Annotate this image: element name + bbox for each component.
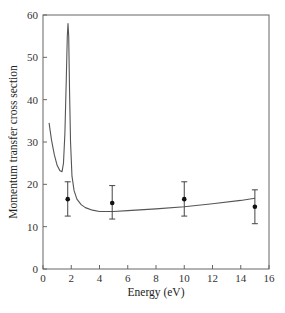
x-tick-label: 12 xyxy=(207,272,218,284)
marker-dot xyxy=(253,204,258,209)
plot-border xyxy=(43,15,269,269)
y-tick-label: 40 xyxy=(27,94,39,106)
x-tick-label: 14 xyxy=(235,272,247,284)
y-axis: 0102030405060 xyxy=(27,9,47,275)
y-tick-label: 0 xyxy=(33,263,39,275)
y-tick-label: 60 xyxy=(27,9,39,21)
x-tick-label: 10 xyxy=(179,272,191,284)
marker-dot xyxy=(65,197,70,202)
data-point xyxy=(109,186,115,219)
theory-curve-path xyxy=(49,23,255,211)
y-tick-label: 10 xyxy=(27,221,39,233)
x-tick-label: 0 xyxy=(40,272,46,284)
x-axis-title: Energy (eV) xyxy=(128,286,185,299)
y-tick-label: 30 xyxy=(27,136,39,148)
data-point xyxy=(252,190,258,224)
x-tick-label: 16 xyxy=(264,272,276,284)
x-tick-label: 2 xyxy=(69,272,75,284)
y-tick-label: 50 xyxy=(27,51,39,63)
theory-curve xyxy=(49,23,255,211)
x-tick-label: 6 xyxy=(125,272,131,284)
chart: 0246810121416 0102030405060 Energy (eV) … xyxy=(0,0,285,313)
data-point xyxy=(181,182,187,216)
data-points xyxy=(65,182,258,224)
marker-dot xyxy=(110,201,115,206)
y-axis-title: Momentum transfer cross section xyxy=(7,65,19,219)
marker-dot xyxy=(182,197,187,202)
y-tick-label: 20 xyxy=(27,178,39,190)
x-tick-label: 4 xyxy=(97,272,103,284)
x-tick-label: 8 xyxy=(153,272,159,284)
x-axis: 0246810121416 xyxy=(40,265,275,284)
data-point xyxy=(65,182,71,216)
plot-frame xyxy=(43,15,269,269)
